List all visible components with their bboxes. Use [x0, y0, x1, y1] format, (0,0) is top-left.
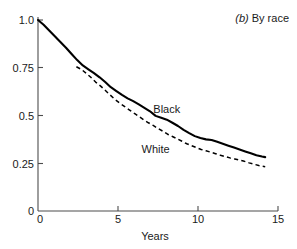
chart-canvas: (b)By race 1.0 0.75 0.5 0.25 0 0 5 [0, 0, 297, 249]
x-tick-label: 15 [272, 213, 284, 225]
survival-curve-figure: (b)By race 1.0 0.75 0.5 0.25 0 0 5 [0, 0, 297, 249]
y-tick-label: 0.25 [13, 158, 34, 170]
y-axis-ticks [38, 20, 43, 164]
x-axis-title: Years [141, 230, 169, 242]
y-tick-label: 1.0 [19, 14, 34, 26]
y-tick-label: 0 [28, 205, 34, 217]
x-axis-ticks [118, 206, 278, 211]
x-tick-label: 5 [115, 213, 121, 225]
y-axis-tick-labels: 1.0 0.75 0.5 0.25 0 [13, 14, 34, 217]
y-tick-label: 0.75 [13, 62, 34, 74]
series-line-black [38, 20, 265, 157]
y-tick-label: 0.5 [19, 110, 34, 122]
series-label-black: Black [153, 103, 180, 115]
panel-title-text: By race [252, 12, 289, 24]
series-label-white: White [142, 143, 170, 155]
x-tick-label: 0 [37, 213, 43, 225]
x-axis-tick-labels: 0 5 10 15 [37, 213, 284, 225]
x-tick-label: 10 [192, 213, 204, 225]
panel-title-prefix: (b) [235, 12, 249, 24]
panel-title: (b)By race [235, 12, 289, 24]
